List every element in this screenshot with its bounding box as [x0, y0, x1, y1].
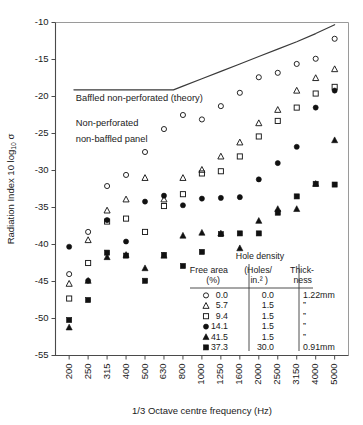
legend-value-free-area: 14.1 [211, 321, 228, 331]
data-point-open-circle [294, 61, 299, 66]
data-point-filled-circle [123, 239, 128, 244]
data-point-filled-circle [275, 161, 280, 166]
x-tick-label: 400 [120, 364, 131, 380]
data-point-open-triangle [313, 75, 319, 81]
annotation-3: non-baffled panel [76, 134, 148, 144]
x-tick-label: 5000 [328, 364, 339, 385]
data-point-open-circle [180, 112, 185, 117]
data-point-filled-circle [294, 144, 299, 149]
legend-header-density: (Holes/ [244, 265, 272, 275]
x-tick-label: 630 [157, 364, 168, 380]
data-point-filled-square [313, 181, 318, 186]
data-point-filled-square [142, 278, 147, 283]
data-point-open-square [180, 192, 185, 197]
legend-value-thickness: ” [303, 332, 306, 342]
data-point-open-square [294, 105, 299, 110]
data-point-filled-triangle [332, 137, 338, 143]
legend-marker-open-triangle [203, 303, 209, 309]
x-tick-label: 200 [63, 364, 74, 380]
data-point-open-square [67, 296, 72, 301]
data-point-open-triangle [180, 175, 186, 181]
data-point-open-circle [105, 183, 110, 188]
data-point-filled-circle [313, 105, 318, 110]
legend-marker-open-square [203, 314, 208, 319]
legend-value-thickness: ” [303, 311, 306, 321]
data-point-open-circle [86, 229, 91, 234]
y-tick-label: -15 [35, 53, 49, 64]
data-point-filled-square [161, 252, 166, 257]
data-point-open-triangle [256, 120, 262, 126]
data-point-open-square [237, 154, 242, 159]
data-point-filled-triangle [294, 206, 300, 212]
data-point-open-square [161, 203, 166, 208]
legend-header-free-area-unit: (%) [206, 275, 220, 285]
data-point-filled-triangle [237, 245, 243, 251]
data-point-filled-square [256, 231, 261, 236]
x-tick-label: 3150 [290, 364, 301, 385]
annotation-2: Non-perforated [76, 118, 139, 128]
data-point-filled-square [67, 317, 72, 322]
data-point-open-triangle [237, 139, 243, 145]
x-tick-label: 4000 [309, 364, 320, 385]
data-point-filled-circle [67, 244, 72, 249]
y-axis-title: Radiation Index 10 log10 σ [5, 134, 17, 245]
data-point-open-triangle [332, 66, 338, 72]
legend-value-thickness: ” [303, 300, 306, 310]
data-point-open-circle [161, 127, 166, 132]
data-point-open-circle [218, 104, 223, 109]
x-tick-label: 1600 [233, 364, 244, 385]
data-point-open-circle [123, 172, 128, 177]
data-point-filled-triangle [256, 218, 262, 224]
legend-value-density: 1.5 [262, 300, 274, 310]
y-tick-label: -50 [35, 312, 49, 323]
data-point-open-square [142, 229, 147, 234]
y-tick-label: -10 [35, 16, 49, 27]
legend-value-thickness: ” [303, 321, 306, 331]
data-point-open-circle [142, 149, 147, 154]
data-point-open-square [123, 216, 128, 221]
data-point-filled-square [294, 194, 299, 199]
x-tick-label: 1250 [214, 364, 225, 385]
y-tick-label: -55 [35, 349, 49, 360]
x-tick-label: 1000 [195, 364, 206, 385]
legend-header-free-area: Free area [190, 265, 228, 275]
data-point-open-circle [313, 56, 318, 61]
annotation-1: Baffled non-perforated (theory) [76, 93, 203, 103]
legend-title: Hole density [236, 251, 285, 261]
data-point-filled-triangle [142, 265, 148, 271]
data-point-open-square [218, 169, 223, 174]
data-point-filled-circle [218, 195, 223, 200]
data-point-filled-circle [199, 196, 204, 201]
legend-value-density: 1.5 [262, 332, 274, 342]
data-point-open-circle [275, 70, 280, 75]
legend-value-free-area: 41.5 [211, 332, 228, 342]
data-point-open-triangle [66, 280, 72, 286]
data-point-open-square [313, 91, 318, 96]
legend-marker-filled-circle [203, 324, 208, 329]
legend-header-thickness: Thick- [290, 265, 314, 275]
data-point-filled-square [237, 231, 242, 236]
data-point-filled-square [105, 250, 110, 255]
data-point-open-triangle [275, 107, 281, 113]
data-point-open-square [275, 118, 280, 123]
data-point-open-circle [237, 90, 242, 95]
legend-marker-filled-square [203, 345, 208, 350]
y-tick-label: -30 [35, 164, 49, 175]
data-point-open-triangle [294, 87, 300, 93]
data-point-open-triangle [104, 207, 110, 213]
data-point-filled-square [199, 249, 204, 254]
data-point-open-square [199, 171, 204, 176]
data-point-open-circle [199, 117, 204, 122]
data-point-open-triangle [218, 153, 224, 159]
radiation-index-chart: -10-15-20-25-30-35-40-45-50-552002503154… [0, 0, 363, 425]
data-point-filled-square [275, 210, 280, 215]
data-point-open-triangle [123, 196, 129, 202]
legend-marker-open-circle [203, 293, 208, 298]
y-tick-label: -45 [35, 275, 49, 286]
data-point-open-square [256, 134, 261, 139]
legend-value-free-area: 37.3 [211, 342, 228, 352]
y-tick-label: -25 [35, 127, 49, 138]
chart-canvas: -10-15-20-25-30-35-40-45-50-552002503154… [0, 0, 363, 425]
legend-value-thickness: 0.91mm [303, 342, 335, 352]
legend-value-free-area: 9.4 [216, 311, 228, 321]
